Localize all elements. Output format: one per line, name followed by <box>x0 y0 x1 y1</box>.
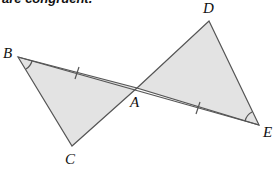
label-b: B <box>3 45 12 61</box>
label-d: D <box>202 0 214 16</box>
label-a: A <box>129 94 140 110</box>
label-e: E <box>262 124 272 140</box>
congruent-triangles-diagram: B C A D E <box>0 0 277 170</box>
label-c: C <box>65 151 76 167</box>
